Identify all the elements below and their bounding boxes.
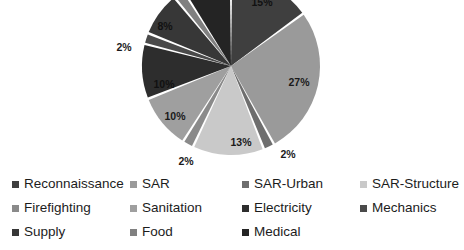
legend-swatch-icon (360, 205, 367, 212)
legend-swatch-icon (242, 205, 249, 212)
legend-item[interactable]: Medical (242, 220, 360, 244)
legend-item-label: Firefighting (24, 201, 91, 215)
legend-item[interactable]: SAR (130, 172, 242, 196)
legend-swatch-icon (12, 229, 19, 236)
pie-slice-value-label: 10% (164, 110, 186, 122)
legend-item-label: Sanitation (142, 201, 202, 215)
pie-slice-value-label: 2% (280, 148, 296, 160)
legend-item[interactable]: Mechanics (360, 196, 464, 220)
legend-item-label: SAR-Urban (254, 177, 323, 191)
chart-legend: ReconnaissanceSARSAR-UrbanSAR-StructureF… (0, 172, 464, 250)
pie-slice-value-label: 13% (230, 136, 252, 148)
legend-item-label: Food (142, 225, 173, 239)
legend-item-label: Mechanics (372, 201, 437, 215)
legend-item-label: Reconnaissance (24, 177, 124, 191)
legend-item-label: Medical (254, 225, 301, 239)
legend-item[interactable]: Firefighting (12, 196, 130, 220)
pie-slice-value-label: 27% (288, 76, 310, 88)
legend-item[interactable]: Electricity (242, 196, 360, 220)
legend-item[interactable]: Supply (12, 220, 130, 244)
legend-swatch-icon (130, 229, 137, 236)
pie-slice-value-label: 10% (153, 78, 175, 90)
pie-slice-value-label: 8% (157, 20, 173, 32)
pie-slice-value-label: 15% (251, 0, 273, 8)
legend-item[interactable]: SAR-Structure (360, 172, 464, 196)
pie-slice-value-label: 2% (178, 155, 194, 167)
legend-item-label: SAR (142, 177, 170, 191)
legend-swatch-icon (12, 205, 19, 212)
pie-chart-area: 15%27%2%13%2%10%10%2%8% (0, 0, 464, 172)
legend-item-label: Supply (24, 225, 65, 239)
legend-item-label: Electricity (254, 201, 312, 215)
legend-swatch-icon (360, 181, 367, 188)
legend-item[interactable]: Reconnaissance (12, 172, 130, 196)
legend-item[interactable]: Sanitation (130, 196, 242, 220)
legend-item-label: SAR-Structure (372, 177, 459, 191)
pie-chart-svg: 15%27%2%13%2%10%10%2%8% (0, 0, 464, 172)
legend-swatch-icon (242, 181, 249, 188)
legend-swatch-icon (130, 181, 137, 188)
legend-swatch-icon (12, 181, 19, 188)
legend-swatch-icon (242, 229, 249, 236)
legend-item[interactable]: SAR-Urban (242, 172, 360, 196)
pie-slice-value-label: 2% (116, 41, 132, 53)
legend-item[interactable]: Food (130, 220, 242, 244)
legend-swatch-icon (130, 205, 137, 212)
